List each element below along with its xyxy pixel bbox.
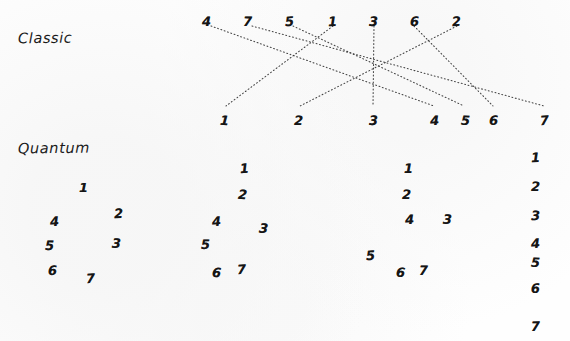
classic-input-digit-7: 7 — [243, 14, 252, 29]
quantum-state-1-digit-5: 5 — [45, 238, 54, 253]
quantum-state-2-digit-1: 1 — [239, 161, 249, 177]
quantum-state-1-digit-2: 2 — [114, 206, 124, 221]
quantum-state-2-digit-3: 3 — [258, 221, 268, 237]
classic-link-4-to-4 — [211, 26, 434, 106]
classic-input-digit-1: 1 — [328, 14, 338, 29]
classic-link-2-to-2 — [300, 26, 457, 106]
quantum-state-collapsed-digit-2: 2 — [531, 179, 540, 194]
classic-output-digit-6: 6 — [489, 113, 498, 128]
quantum-state-2-digit-5: 5 — [201, 237, 210, 252]
classic-input-digit-3: 3 — [369, 14, 378, 29]
classic-link-1-to-1 — [226, 26, 333, 106]
classic-link-5-to-5 — [293, 26, 464, 106]
quantum-state-1-digit-4: 4 — [50, 214, 60, 230]
quantum-state-1-digit-1: 1 — [79, 180, 88, 195]
quantum-state-1-digit-7: 7 — [86, 271, 96, 286]
classic-output-digit-2: 2 — [294, 113, 303, 128]
classic-input-digit-4: 4 — [202, 14, 211, 29]
quantum-state-2-digit-6: 6 — [211, 265, 221, 281]
quantum-state-2-digit-7: 7 — [237, 262, 247, 277]
classic-output-digit-1: 1 — [220, 113, 230, 129]
classic-link-3-to-3 — [373, 26, 374, 106]
quantum-state-collapsed-digit-4: 4 — [531, 236, 541, 252]
classic-input-digit-2: 2 — [451, 14, 461, 30]
quantum-state-3-digit-7: 7 — [419, 263, 428, 278]
quantum-state-3-digit-3: 3 — [443, 212, 452, 227]
quantum-state-3-digit-1: 1 — [404, 161, 413, 176]
quantum-state-3-digit-6: 6 — [395, 265, 405, 281]
quantum-row-label: Quantum — [18, 140, 90, 157]
classic-output-digit-3: 3 — [369, 113, 378, 128]
quantum-state-2-digit-4: 4 — [212, 214, 222, 230]
quantum-state-1-digit-3: 3 — [112, 236, 121, 251]
quantum-state-collapsed-digit-1: 1 — [531, 150, 541, 165]
quantum-state-collapsed-digit-3: 3 — [531, 208, 540, 223]
quantum-state-3-digit-4: 4 — [405, 212, 415, 227]
classic-output-digit-4: 4 — [430, 113, 440, 128]
quantum-state-3-digit-2: 2 — [402, 187, 411, 202]
figure-canvas: Classic Quantum 475136212345671234567123… — [0, 0, 570, 341]
classic-input-digit-6: 6 — [410, 14, 419, 29]
classic-mapping-lines — [0, 0, 570, 341]
classic-output-digit-7: 7 — [539, 113, 549, 129]
quantum-state-collapsed-digit-5: 5 — [531, 255, 541, 270]
quantum-state-collapsed-digit-7: 7 — [531, 319, 540, 334]
classic-link-6-to-6 — [414, 26, 493, 106]
classic-input-digit-5: 5 — [285, 14, 295, 30]
classic-output-digit-5: 5 — [461, 113, 471, 128]
quantum-state-3-digit-5: 5 — [366, 248, 376, 263]
quantum-state-1-digit-6: 6 — [48, 263, 57, 278]
quantum-state-collapsed-digit-6: 6 — [531, 281, 540, 296]
quantum-state-2-digit-2: 2 — [237, 187, 247, 203]
classic-link-7-to-7 — [252, 26, 544, 106]
classic-row-label: Classic — [18, 30, 73, 47]
